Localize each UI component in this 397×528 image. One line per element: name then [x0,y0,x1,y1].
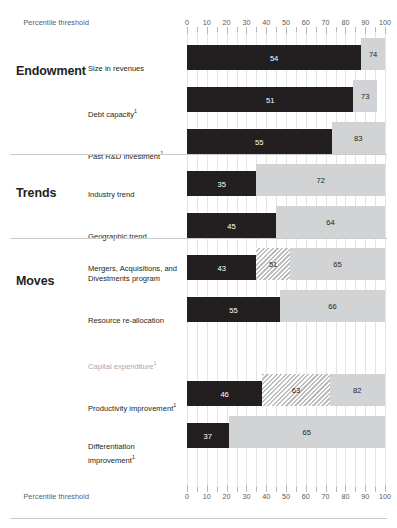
axis-tick-label[interactable]: 10 [203,492,211,501]
axis-tick-mark[interactable] [296,487,297,492]
axis-tick-mark[interactable] [375,487,376,492]
axis-tick-mark[interactable] [237,487,238,492]
bar-light[interactable]: 82 [330,374,385,406]
bar-light[interactable]: 66 [280,290,385,322]
axis-tick-label[interactable]: 60 [302,18,310,27]
bar-dark[interactable]: 35 [187,171,256,196]
row-label[interactable]: Size in revenues [88,64,183,74]
axis-tick-label[interactable]: 40 [262,492,270,501]
bar-value-light[interactable]: 66 [328,302,336,311]
axis-tick-mark[interactable] [326,27,327,34]
axis-tick-mark[interactable] [256,487,257,492]
axis-tick-mark[interactable] [217,487,218,492]
axis-tick-mark[interactable] [355,27,356,32]
axis-tick-mark[interactable] [197,27,198,32]
row-label[interactable]: Resource re-allocation [88,316,183,326]
axis-tick-label[interactable]: 30 [242,492,250,501]
bar-light[interactable]: 64 [276,206,385,238]
axis-bottom[interactable]: Percentile threshold01020304050607080901… [0,492,397,514]
bar-value-dark[interactable]: 51 [266,95,274,104]
axis-top[interactable]: Percentile threshold01020304050607080901… [0,18,397,40]
bar-light[interactable]: 73 [353,80,377,112]
axis-tick-label[interactable]: 30 [242,18,250,27]
axis-tick-mark[interactable] [227,485,228,492]
bar-value-dark[interactable]: 35 [217,179,225,188]
row-label[interactable]: Differentiation improvement1 [88,442,183,466]
axis-tick-label[interactable]: 20 [223,492,231,501]
bar-value-dark[interactable]: 45 [227,221,235,230]
gridline[interactable] [385,30,386,488]
section-label-endowment[interactable]: Endowment [16,64,86,78]
bar-dark[interactable]: 45 [187,213,276,238]
axis-tick-mark[interactable] [345,27,346,34]
axis-tick-mark[interactable] [227,27,228,34]
axis-tick-mark[interactable] [375,27,376,32]
row-label[interactable]: Capital expenditure1 [88,358,183,372]
axis-tick-mark[interactable] [385,485,386,492]
row-label[interactable]: Productivity improvement1 [88,400,183,414]
bar-value-light[interactable]: 73 [361,92,369,101]
bar-dark[interactable]: 46 [187,381,262,406]
axis-tick-label[interactable]: 20 [223,18,231,27]
bar-value-light[interactable]: 83 [354,134,362,143]
axis-tick-mark[interactable] [246,485,247,492]
axis-tick-label[interactable]: 10 [203,18,211,27]
axis-tick-mark[interactable] [187,485,188,492]
axis-tick-label[interactable]: 50 [282,492,290,501]
section-divider[interactable] [10,154,387,155]
bar-dark[interactable]: 54 [187,45,361,70]
axis-tick-label[interactable]: 100 [379,492,391,501]
top-divider[interactable] [10,6,387,7]
axis-tick-label[interactable]: 50 [282,18,290,27]
bar-value-light[interactable]: 64 [326,218,334,227]
bar-dark[interactable]: 37 [187,423,229,448]
axis-tick-mark[interactable] [266,27,267,34]
axis-tick-label[interactable]: 100 [379,18,391,27]
axis-tick-mark[interactable] [217,27,218,32]
axis-tick-mark[interactable] [197,487,198,492]
axis-tick-mark[interactable] [276,27,277,32]
axis-tick-mark[interactable] [286,485,287,492]
row-label[interactable]: Geographic trend [88,232,183,242]
bar-dark[interactable]: 55 [187,297,280,322]
bar-value-dark[interactable]: 43 [217,263,225,272]
axis-tick-mark[interactable] [385,27,386,34]
axis-tick-mark[interactable] [306,27,307,34]
bar-value-dark[interactable]: 46 [220,389,228,398]
axis-tick-mark[interactable] [207,27,208,34]
axis-tick-label[interactable]: 70 [322,492,330,501]
row-label[interactable]: Industry trend [88,190,183,200]
bar-value-light[interactable]: 65 [333,260,341,269]
axis-tick-label[interactable]: 80 [341,18,349,27]
axis-tick-mark[interactable] [246,27,247,34]
bar-hatched[interactable]: 51 [256,248,290,280]
axis-tick-label[interactable]: 70 [322,18,330,27]
bar-value-dark[interactable]: 55 [255,137,263,146]
axis-tick-label[interactable]: 80 [341,492,349,501]
axis-tick-mark[interactable] [355,487,356,492]
bar-light[interactable]: 72 [256,164,385,196]
axis-tick-label[interactable]: 0 [185,18,189,27]
bar-value-hatched[interactable]: 51 [269,260,277,269]
bar-dark[interactable]: 51 [187,87,353,112]
axis-tick-mark[interactable] [326,485,327,492]
axis-tick-mark[interactable] [187,27,188,34]
axis-tick-mark[interactable] [286,27,287,34]
axis-tick-mark[interactable] [276,487,277,492]
bottom-divider[interactable] [10,518,387,519]
axis-caption[interactable]: Percentile threshold [23,18,89,27]
axis-tick-mark[interactable] [365,27,366,34]
axis-tick-mark[interactable] [296,27,297,32]
row-label[interactable]: Mergers, Acquisitions, and Divestments p… [88,264,183,284]
section-label-trends[interactable]: Trends [16,186,56,200]
axis-tick-mark[interactable] [336,27,337,32]
bar-hatched[interactable]: 63 [262,374,329,406]
bar-value-hatched[interactable]: 63 [292,386,300,395]
section-label-moves[interactable]: Moves [16,274,54,288]
axis-caption[interactable]: Percentile threshold [23,492,89,501]
axis-tick-mark[interactable] [336,487,337,492]
bar-value-light[interactable]: 74 [369,50,377,59]
bar-light[interactable]: 65 [229,416,385,448]
section-divider[interactable] [10,238,387,239]
bar-light[interactable]: 83 [332,122,385,154]
